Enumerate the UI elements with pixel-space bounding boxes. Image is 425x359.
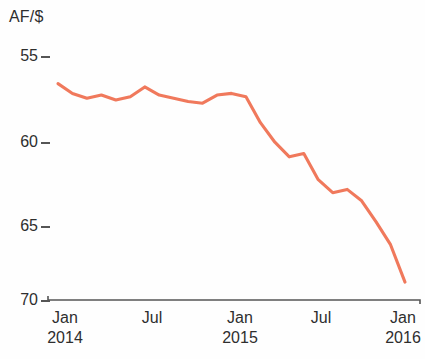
- x-tick-month: Jan: [52, 309, 78, 326]
- x-tick-month: Jul: [311, 309, 331, 326]
- exchange-rate-line: [58, 84, 405, 282]
- x-tick-jan-2015: Jan 2015: [205, 308, 275, 349]
- x-tick-month: Jan: [390, 309, 416, 326]
- x-tick-jan-2016: Jan 2016: [368, 308, 425, 349]
- x-axis-line: [48, 296, 420, 304]
- x-tick-jan-2014: Jan 2014: [30, 308, 100, 349]
- x-tick-jul-2015: Jul: [286, 308, 356, 328]
- chart-container: AF/$ 55 60 65 70 Jan 2014 Jul Jan 2015 J…: [0, 0, 425, 359]
- x-tick-jul-2014: Jul: [117, 308, 187, 328]
- x-tick-year: 2016: [368, 328, 425, 348]
- x-tick-year: 2014: [30, 328, 100, 348]
- x-tick-year: 2015: [205, 328, 275, 348]
- plot-area: [0, 0, 425, 359]
- x-tick-month: Jul: [142, 309, 162, 326]
- x-tick-month: Jan: [227, 309, 253, 326]
